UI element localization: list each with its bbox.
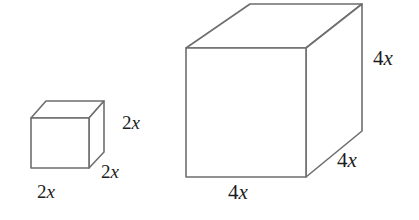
large-cube-width-variable: x bbox=[239, 180, 248, 204]
large-cube-width-coefficient: 4 bbox=[228, 180, 239, 204]
small-cube-width-coefficient: 2 bbox=[37, 181, 47, 202]
large-cube-height-variable: x bbox=[384, 46, 393, 70]
large-cube-width-label: 4x bbox=[228, 182, 248, 203]
large-cube-depth-label: 4x bbox=[337, 150, 357, 171]
small-cube-height-variable: x bbox=[132, 112, 140, 133]
small-cube-depth-variable: x bbox=[111, 161, 119, 182]
small-cube-front-face bbox=[31, 118, 89, 168]
small-cube-depth-label: 2x bbox=[101, 162, 119, 181]
geometry-figure: 2x 2x 2x 4x 4x 4x bbox=[0, 0, 419, 220]
large-cube-depth-variable: x bbox=[348, 148, 357, 172]
large-cube-height-coefficient: 4 bbox=[373, 46, 384, 70]
small-cube-width-variable: x bbox=[47, 181, 55, 202]
small-cube-shape bbox=[31, 101, 104, 168]
large-cube-front-face bbox=[186, 48, 306, 177]
small-cube-depth-coefficient: 2 bbox=[101, 161, 111, 182]
large-cube-depth-coefficient: 4 bbox=[337, 148, 348, 172]
large-cube-height-label: 4x bbox=[373, 48, 393, 69]
small-cube-height-coefficient: 2 bbox=[122, 112, 132, 133]
small-cube-height-label: 2x bbox=[122, 113, 140, 132]
cube-diagram-canvas bbox=[0, 0, 419, 220]
small-cube-width-label: 2x bbox=[37, 182, 55, 201]
large-cube-shape bbox=[186, 4, 362, 177]
